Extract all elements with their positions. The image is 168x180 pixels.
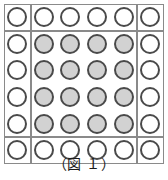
circle-icon-filled bbox=[114, 87, 134, 107]
grid-cell-r3c2 bbox=[31, 57, 58, 84]
grid-cell-r5c5 bbox=[110, 110, 137, 137]
grid-cell-r5c6 bbox=[137, 110, 164, 137]
circle-icon-filled bbox=[60, 114, 80, 134]
figure-container: （図 １） bbox=[0, 0, 168, 180]
circle-icon-filled bbox=[34, 34, 54, 54]
circle-icon-empty bbox=[140, 87, 160, 107]
circle-layer bbox=[4, 4, 164, 152]
circle-icon-filled bbox=[60, 87, 80, 107]
circle-icon-filled bbox=[87, 87, 107, 107]
grid-cell-r3c4 bbox=[84, 57, 111, 84]
grid-cell-r4c4 bbox=[84, 84, 111, 111]
grid-cell-r5c2 bbox=[31, 110, 58, 137]
grid-cell-r1c1 bbox=[4, 4, 31, 31]
grid-cell-r4c6 bbox=[137, 84, 164, 111]
grid-cell-r2c4 bbox=[84, 31, 111, 58]
grid-cell-r5c3 bbox=[57, 110, 84, 137]
grid-cell-r3c1 bbox=[4, 57, 31, 84]
circle-icon-empty bbox=[7, 87, 27, 107]
circle-icon-empty bbox=[140, 7, 160, 27]
circle-icon-filled bbox=[114, 34, 134, 54]
circle-icon-filled bbox=[34, 114, 54, 134]
grid-cell-r1c5 bbox=[110, 4, 137, 31]
grid-cell-r2c1 bbox=[4, 31, 31, 58]
grid-cell-r1c3 bbox=[57, 4, 84, 31]
circle-icon-empty bbox=[114, 7, 134, 27]
grid-cell-r4c5 bbox=[110, 84, 137, 111]
circle-icon-filled bbox=[87, 60, 107, 80]
circle-icon-filled bbox=[60, 60, 80, 80]
circle-icon-filled bbox=[114, 114, 134, 134]
circle-icon-filled bbox=[34, 60, 54, 80]
grid-cell-r2c3 bbox=[57, 31, 84, 58]
circle-icon-empty bbox=[34, 7, 54, 27]
grid-cell-r1c6 bbox=[137, 4, 164, 31]
circle-icon-empty bbox=[140, 114, 160, 134]
grid-cell-r3c6 bbox=[137, 57, 164, 84]
circle-icon-empty bbox=[140, 60, 160, 80]
grid-cell-r2c2 bbox=[31, 31, 58, 58]
circle-icon-filled bbox=[114, 60, 134, 80]
grid-cell-r4c1 bbox=[4, 84, 31, 111]
circle-icon-empty bbox=[87, 7, 107, 27]
grid-cell-r5c4 bbox=[84, 110, 111, 137]
grid-cell-r5c1 bbox=[4, 110, 31, 137]
grid-cell-r1c2 bbox=[31, 4, 58, 31]
circle-icon-filled bbox=[87, 34, 107, 54]
grid-cell-r4c2 bbox=[31, 84, 58, 111]
grid-cell-r2c6 bbox=[137, 31, 164, 58]
grid-cell-r3c5 bbox=[110, 57, 137, 84]
circle-icon-filled bbox=[60, 34, 80, 54]
circle-icon-empty bbox=[140, 34, 160, 54]
circle-icon-empty bbox=[7, 114, 27, 134]
circle-icon-empty bbox=[7, 7, 27, 27]
circle-icon-empty bbox=[7, 34, 27, 54]
circle-grid-diagram bbox=[4, 4, 164, 152]
grid-cell-r4c3 bbox=[57, 84, 84, 111]
circle-icon-filled bbox=[87, 114, 107, 134]
grid-cell-r1c4 bbox=[84, 4, 111, 31]
circle-icon-empty bbox=[60, 7, 80, 27]
circle-icon-filled bbox=[34, 87, 54, 107]
figure-caption: （図 １） bbox=[0, 154, 168, 174]
grid-cell-r3c3 bbox=[57, 57, 84, 84]
grid-cell-r2c5 bbox=[110, 31, 137, 58]
circle-icon-empty bbox=[7, 60, 27, 80]
